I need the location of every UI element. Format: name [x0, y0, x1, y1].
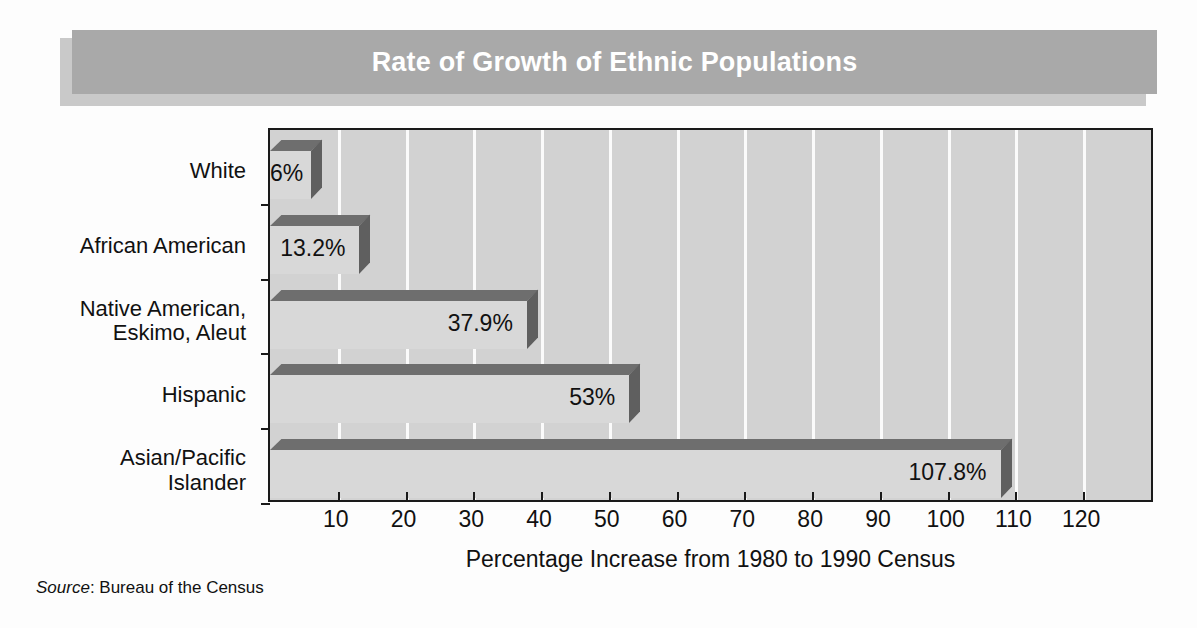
category-label-line: White: [0, 159, 246, 184]
title-banner: Rate of Growth of Ethnic Populations: [72, 30, 1157, 94]
bar-top-face: [270, 290, 538, 301]
category-label: African American: [0, 234, 256, 259]
y-axis-tick: [261, 428, 270, 430]
x-axis-tick: [1083, 492, 1085, 501]
x-axis-tick: [406, 492, 408, 501]
bar-value-label: 13.2%: [270, 235, 353, 262]
category-axis-labels: WhiteAfrican AmericanNative American,Esk…: [0, 128, 256, 502]
y-axis-tick: [261, 204, 270, 206]
x-axis-tick-label: 100: [927, 506, 965, 533]
category-label-line: Hispanic: [0, 383, 246, 408]
category-label: White: [0, 159, 256, 184]
x-axis-tick: [541, 492, 543, 501]
bar-side-face: [1001, 439, 1012, 498]
category-label: Native American,Eskimo, Aleut: [0, 297, 256, 346]
chart-page: Rate of Growth of Ethnic Populations Whi…: [0, 0, 1197, 628]
x-axis-title: Percentage Increase from 1980 to 1990 Ce…: [268, 546, 1153, 573]
y-axis-tick: [261, 503, 270, 505]
x-axis-tick-label: 80: [797, 506, 823, 533]
x-axis-tick-label: 70: [730, 506, 756, 533]
source-separator: :: [90, 578, 99, 597]
bar-series: 6%13.2%37.9%53%107.8%: [270, 130, 1151, 500]
x-axis-tick: [473, 492, 475, 501]
source-text: Bureau of the Census: [99, 578, 263, 597]
bar-side-face: [311, 139, 322, 198]
x-axis-tick-labels: 102030405060708090100110120: [268, 506, 1153, 536]
bar-value-label: 53%: [270, 384, 623, 411]
x-axis-tick-label: 20: [391, 506, 417, 533]
y-axis-tick: [261, 353, 270, 355]
x-axis-tick-label: 110: [995, 506, 1032, 533]
x-axis-tick: [609, 492, 611, 501]
x-axis-tick: [338, 492, 340, 501]
x-axis-tick: [880, 492, 882, 501]
x-axis-tick-label: 60: [662, 506, 688, 533]
source-label: Source: [36, 578, 90, 597]
bar-value-label: 107.8%: [270, 459, 995, 486]
x-axis-tick: [744, 492, 746, 501]
x-axis-tick: [948, 492, 950, 501]
x-axis-tick-label: 120: [1062, 506, 1100, 533]
bar-top-face: [270, 215, 371, 226]
x-axis-tick-label: 50: [594, 506, 620, 533]
category-label-line: Islander: [0, 471, 246, 496]
category-label: Hispanic: [0, 383, 256, 408]
category-label-line: Eskimo, Aleut: [0, 321, 246, 346]
bar-value-label: 6%: [270, 160, 305, 187]
bar-value-label: 37.9%: [270, 310, 521, 337]
category-label-line: Native American,: [0, 297, 246, 322]
x-axis-tick-label: 10: [323, 506, 349, 533]
category-label: Asian/PacificIslander: [0, 446, 256, 495]
category-label-line: Asian/Pacific: [0, 446, 246, 471]
bar-side-face: [629, 364, 640, 423]
y-axis-tick: [261, 279, 270, 281]
x-axis-tick-label: 30: [459, 506, 485, 533]
x-axis-tick: [677, 492, 679, 501]
plot-area: 6%13.2%37.9%53%107.8%: [268, 128, 1153, 502]
bar-side-face: [359, 214, 370, 273]
x-axis-tick-label: 90: [865, 506, 891, 533]
chart-title: Rate of Growth of Ethnic Populations: [372, 47, 858, 78]
bar-top-face: [270, 439, 1012, 450]
bar-side-face: [527, 289, 538, 348]
bar-top-face: [270, 364, 641, 375]
x-axis-tick: [812, 492, 814, 501]
category-label-line: African American: [0, 234, 246, 259]
source-note: Source: Bureau of the Census: [36, 578, 264, 598]
x-axis-tick-label: 40: [526, 506, 552, 533]
x-axis-tick: [1015, 492, 1017, 501]
